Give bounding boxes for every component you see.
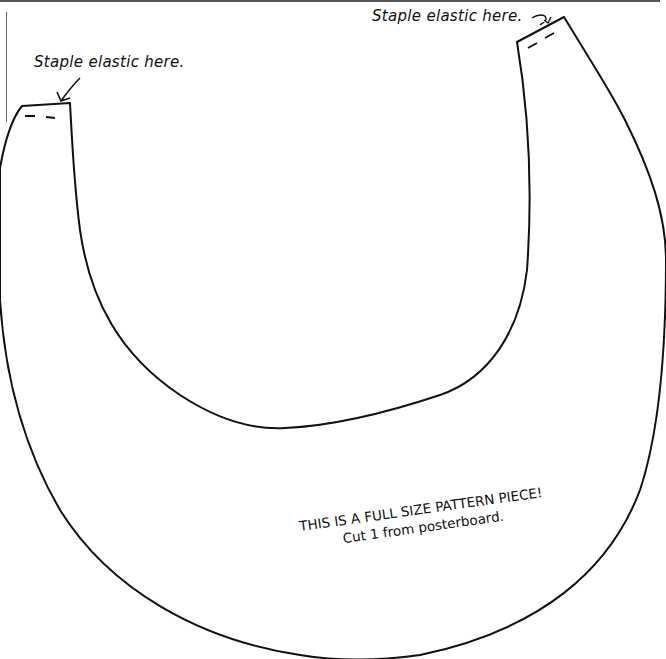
pattern-piece-shape [0,17,666,659]
arrow-icon [532,15,551,25]
staple-mark-icon [528,43,537,48]
staple-label-right: Staple elastic here. [372,7,523,25]
pattern-outline [0,0,666,659]
staple-label-left: Staple elastic here. [34,53,185,71]
staple-mark-icon [545,33,554,38]
staple-mark-icon [46,117,55,118]
arrow-icon [57,78,80,101]
